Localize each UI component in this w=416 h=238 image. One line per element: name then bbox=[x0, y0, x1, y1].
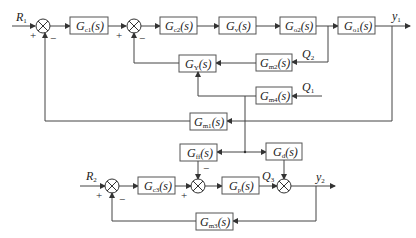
sum1-minus-sign: − bbox=[50, 32, 56, 44]
q3-label: Q3 bbox=[262, 169, 275, 184]
summing-junction-1 bbox=[36, 19, 50, 33]
block-gv[interactable]: Gv(s) bbox=[219, 17, 256, 34]
block-gc3[interactable]: Gc3(s) bbox=[138, 177, 175, 194]
block-gc1[interactable]: Gc1(s) bbox=[70, 17, 108, 34]
sum2-plus-sign: + bbox=[116, 29, 122, 41]
block-gff[interactable]: Gff(s) bbox=[180, 144, 217, 161]
r1-label: R1 bbox=[15, 10, 27, 25]
block-gm2[interactable]: Gm2(s) bbox=[256, 54, 292, 71]
sum4-plus-sign: + bbox=[181, 189, 187, 201]
block-gp[interactable]: Gp(s) bbox=[222, 177, 259, 194]
r2-label: R2 bbox=[85, 169, 97, 184]
svg-text:Gv(s): Gv(s) bbox=[226, 19, 251, 34]
block-diagram: R1 + − Gc1(s) + − Gc2(s) Gv(s) Go2(s) Go… bbox=[0, 0, 416, 238]
block-gm3[interactable]: Gm3(s) bbox=[196, 213, 233, 230]
block-gm1[interactable]: Gm1(s) bbox=[190, 113, 227, 130]
sum3-minus-sign: − bbox=[119, 193, 125, 205]
y2-label: y2 bbox=[315, 170, 325, 185]
summing-junction-4 bbox=[191, 179, 205, 193]
svg-text:Gp(s): Gp(s) bbox=[229, 179, 254, 194]
sum1-plus-sign: + bbox=[30, 29, 36, 41]
q2-label: Q2 bbox=[302, 47, 315, 62]
q1-label: Q1 bbox=[302, 80, 315, 95]
block-go2[interactable]: Go2(s) bbox=[280, 17, 316, 34]
block-gd[interactable]: Gd(s) bbox=[266, 143, 302, 160]
svg-text:GY(s): GY(s) bbox=[185, 57, 211, 72]
sum4-minus-sign: − bbox=[203, 162, 209, 174]
summing-junction-5 bbox=[277, 179, 291, 193]
svg-text:Gd(s): Gd(s) bbox=[273, 145, 298, 160]
summing-junction-3 bbox=[105, 179, 119, 193]
block-gy[interactable]: GY(s) bbox=[179, 55, 216, 72]
sum2-minus-sign: − bbox=[139, 32, 145, 44]
block-go1[interactable]: Go1(s) bbox=[338, 17, 375, 34]
block-gc2[interactable]: Gc2(s) bbox=[160, 17, 197, 34]
block-gm4[interactable]: Gm4(s) bbox=[256, 87, 292, 104]
sum3-plus-sign: + bbox=[96, 189, 102, 201]
y1-label: y1 bbox=[391, 9, 401, 24]
summing-junction-2 bbox=[127, 19, 141, 33]
svg-text:Gff(s): Gff(s) bbox=[187, 146, 213, 161]
